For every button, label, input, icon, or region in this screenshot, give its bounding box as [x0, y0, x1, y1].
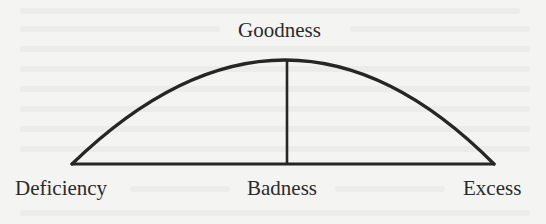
label-deficiency: Deficiency	[15, 178, 107, 199]
label-goodness: Goodness	[238, 20, 321, 41]
label-badness: Badness	[247, 178, 317, 199]
arc-curve	[72, 60, 494, 164]
label-excess: Excess	[463, 178, 521, 199]
